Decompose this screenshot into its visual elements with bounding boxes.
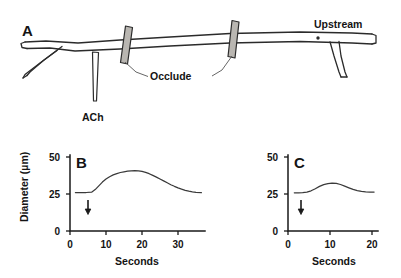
panel-c-letter: C [294, 154, 305, 171]
vessel-branch-right-right [339, 42, 347, 78]
panel-b-x-axis-title: Seconds [115, 255, 159, 267]
upstream-label: Upstream [314, 18, 362, 30]
panel-c-ylabel-0: 0 [272, 226, 278, 237]
panel-b-ach-arrow-icon [85, 200, 91, 215]
panel-c-ylabel-25: 25 [267, 189, 279, 200]
panel-a-group: A [21, 18, 376, 123]
occluder-rod-2-icon [212, 21, 239, 77]
occluder-rod-1-icon [121, 26, 149, 77]
micropipette-icon [93, 52, 99, 101]
panel-b-xlabel-20: 20 [136, 239, 148, 250]
vessel-proximal-end [21, 42, 27, 49]
panel-b-ylabel-50: 50 [49, 152, 61, 163]
measurement-site-dot-icon [316, 36, 319, 39]
panel-b-trace [75, 171, 201, 193]
figure-svg: A [0, 0, 401, 278]
vessel-upper-wall [25, 32, 372, 43]
y-axis-title: Diameter (µm) [18, 152, 30, 222]
panel-c-trace [294, 183, 374, 193]
figure-container: A [0, 0, 401, 278]
panel-c-ach-arrow-icon [298, 200, 304, 215]
ach-label: ACh [82, 111, 104, 123]
panel-c-group: 50 25 0 0 10 20 C Seconds [267, 152, 378, 267]
panel-b-ylabel-0: 0 [54, 226, 60, 237]
panel-b-ylabel-25: 25 [49, 189, 61, 200]
panel-c-xlabel-20: 20 [366, 239, 378, 250]
vessel-distal-end [372, 34, 376, 44]
panel-b-group: 50 25 0 0 10 20 30 B Seconds [49, 152, 205, 267]
panel-b-axes [70, 155, 205, 231]
panel-a-letter: A [22, 22, 33, 39]
panel-c-xlabel-0: 0 [285, 239, 291, 250]
panel-c-x-axis-title: Seconds [312, 255, 356, 267]
panel-b-xlabel-0: 0 [67, 239, 73, 250]
panel-b-letter: B [76, 154, 87, 171]
occlude-label: Occlude [150, 70, 192, 82]
panel-b-xlabel-10: 10 [100, 239, 112, 250]
panel-c-ylabel-50: 50 [267, 152, 279, 163]
panel-b-xlabel-30: 30 [172, 239, 184, 250]
panel-c-xlabel-10: 10 [324, 239, 336, 250]
